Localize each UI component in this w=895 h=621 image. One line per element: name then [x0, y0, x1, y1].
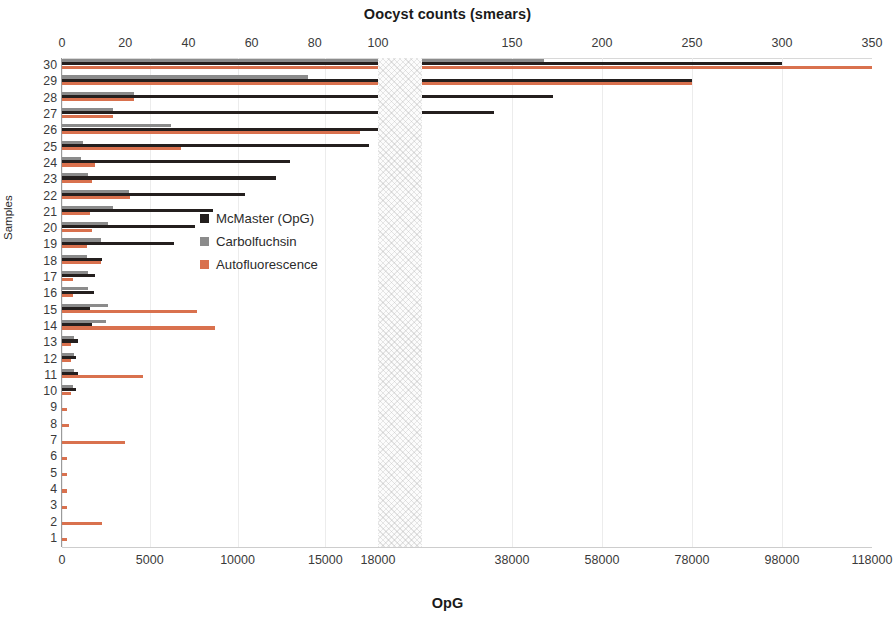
bar-group [422, 91, 872, 107]
bar-autofluorescence [62, 408, 67, 411]
bar-autofluorescence [62, 538, 67, 541]
bottom-axis-tick: 10000 [220, 553, 255, 567]
legend-item[interactable]: McMaster (OpG) [200, 208, 318, 228]
legend-label: McMaster (OpG) [216, 211, 314, 226]
plot-panel-upper-range [422, 58, 872, 547]
bar-group [62, 140, 378, 156]
bar-autofluorescence [62, 261, 101, 264]
bar-group [422, 400, 872, 416]
bar-autofluorescence [62, 424, 69, 427]
bottom-axis-tick: 98000 [765, 553, 800, 567]
legend-item[interactable]: Carbolfuchsin [200, 231, 318, 251]
top-axis-tick: 150 [502, 36, 523, 50]
y-axis-category-label: 14 [43, 319, 57, 333]
bar-autofluorescence [62, 506, 67, 509]
bar-group [422, 449, 872, 465]
bar-autofluorescence [62, 343, 71, 346]
bar-group [422, 237, 872, 253]
y-axis-category-label: 3 [50, 498, 57, 512]
bar-group [422, 221, 872, 237]
bar-autofluorescence [62, 457, 67, 460]
bar-group [62, 172, 378, 188]
bar-group [62, 107, 378, 123]
top-axis-tick: 200 [592, 36, 613, 50]
y-axis-category-labels: 3029282726252423222120191817161514131211… [18, 58, 57, 547]
bar-group [422, 74, 872, 90]
y-axis-category-label: 6 [50, 449, 57, 463]
y-axis-category-label: 7 [50, 433, 57, 447]
y-axis-category-label: 19 [43, 237, 57, 251]
bar-group [422, 351, 872, 367]
bar-group [62, 384, 378, 400]
bar-autofluorescence [422, 82, 692, 85]
bar-autofluorescence [62, 229, 92, 232]
bar-group [62, 123, 378, 139]
bar-group [422, 286, 872, 302]
bar-group [422, 58, 872, 74]
bar-group [422, 482, 872, 498]
y-axis-title: Samples [2, 195, 14, 240]
y-axis-category-label: 16 [43, 286, 57, 300]
y-axis-category-label: 5 [50, 466, 57, 480]
bar-group [422, 466, 872, 482]
bar-group [422, 498, 872, 514]
top-axis-tick: 40 [181, 36, 195, 50]
bar-group [422, 188, 872, 204]
bottom-axis-tick: 0 [59, 553, 66, 567]
chart-figure: Oocyst counts (smears) 02040608010015020… [0, 0, 895, 621]
y-axis-category-label: 28 [43, 91, 57, 105]
bar-autofluorescence [62, 375, 143, 378]
bar-group [422, 368, 872, 384]
legend-item[interactable]: Autofluorescence [200, 254, 318, 274]
top-axis-tick: 20 [118, 36, 132, 50]
bar-autofluorescence [62, 180, 92, 183]
bar-autofluorescence [62, 294, 73, 297]
y-axis-category-label: 8 [50, 417, 57, 431]
legend-label: Carbolfuchsin [216, 234, 297, 249]
legend-swatch-icon [200, 260, 209, 269]
y-axis-category-label: 29 [43, 74, 57, 88]
bar-autofluorescence [62, 278, 73, 281]
top-axis-tick: 350 [862, 36, 883, 50]
bar-group [422, 140, 872, 156]
bar-autofluorescence [62, 196, 130, 199]
bar-autofluorescence [62, 522, 102, 525]
bar-group [422, 156, 872, 172]
bar-group [62, 433, 378, 449]
bar-autofluorescence [62, 163, 95, 166]
bar-autofluorescence [62, 66, 378, 69]
legend-swatch-icon [200, 214, 209, 223]
bottom-axis-tick: 5000 [136, 553, 164, 567]
bar-autofluorescence [62, 326, 215, 329]
bar-group [62, 188, 378, 204]
bottom-axis-tick: 18000 [361, 553, 396, 567]
y-axis-category-label: 21 [43, 205, 57, 219]
bar-autofluorescence [62, 441, 125, 444]
bar-autofluorescence [62, 359, 71, 362]
bar-mcmaster [422, 95, 553, 98]
y-axis-category-label: 17 [43, 270, 57, 284]
bar-group [62, 351, 378, 367]
bar-autofluorescence [62, 147, 181, 150]
bottom-axis-tick: 15000 [308, 553, 343, 567]
y-axis-category-label: 2 [50, 515, 57, 529]
bar-group [62, 156, 378, 172]
y-axis-category-label: 13 [43, 335, 57, 349]
bar-group [422, 172, 872, 188]
bottom-axis-tick: 38000 [495, 553, 530, 567]
top-axis-tick: 60 [245, 36, 259, 50]
axis-break-band [378, 58, 422, 547]
bar-mcmaster [422, 111, 494, 114]
bottom-axis-tick: 58000 [585, 553, 620, 567]
x-axis-title: OpG [0, 595, 895, 611]
bar-group [62, 303, 378, 319]
legend-swatch-icon [200, 237, 209, 246]
y-axis-category-label: 23 [43, 172, 57, 186]
bar-group [62, 335, 378, 351]
bar-group [422, 270, 872, 286]
bar-group [62, 58, 378, 74]
bar-group [62, 400, 378, 416]
y-axis-category-label: 30 [43, 58, 57, 72]
bottom-axis-line [62, 547, 872, 548]
y-axis-category-label: 25 [43, 140, 57, 154]
